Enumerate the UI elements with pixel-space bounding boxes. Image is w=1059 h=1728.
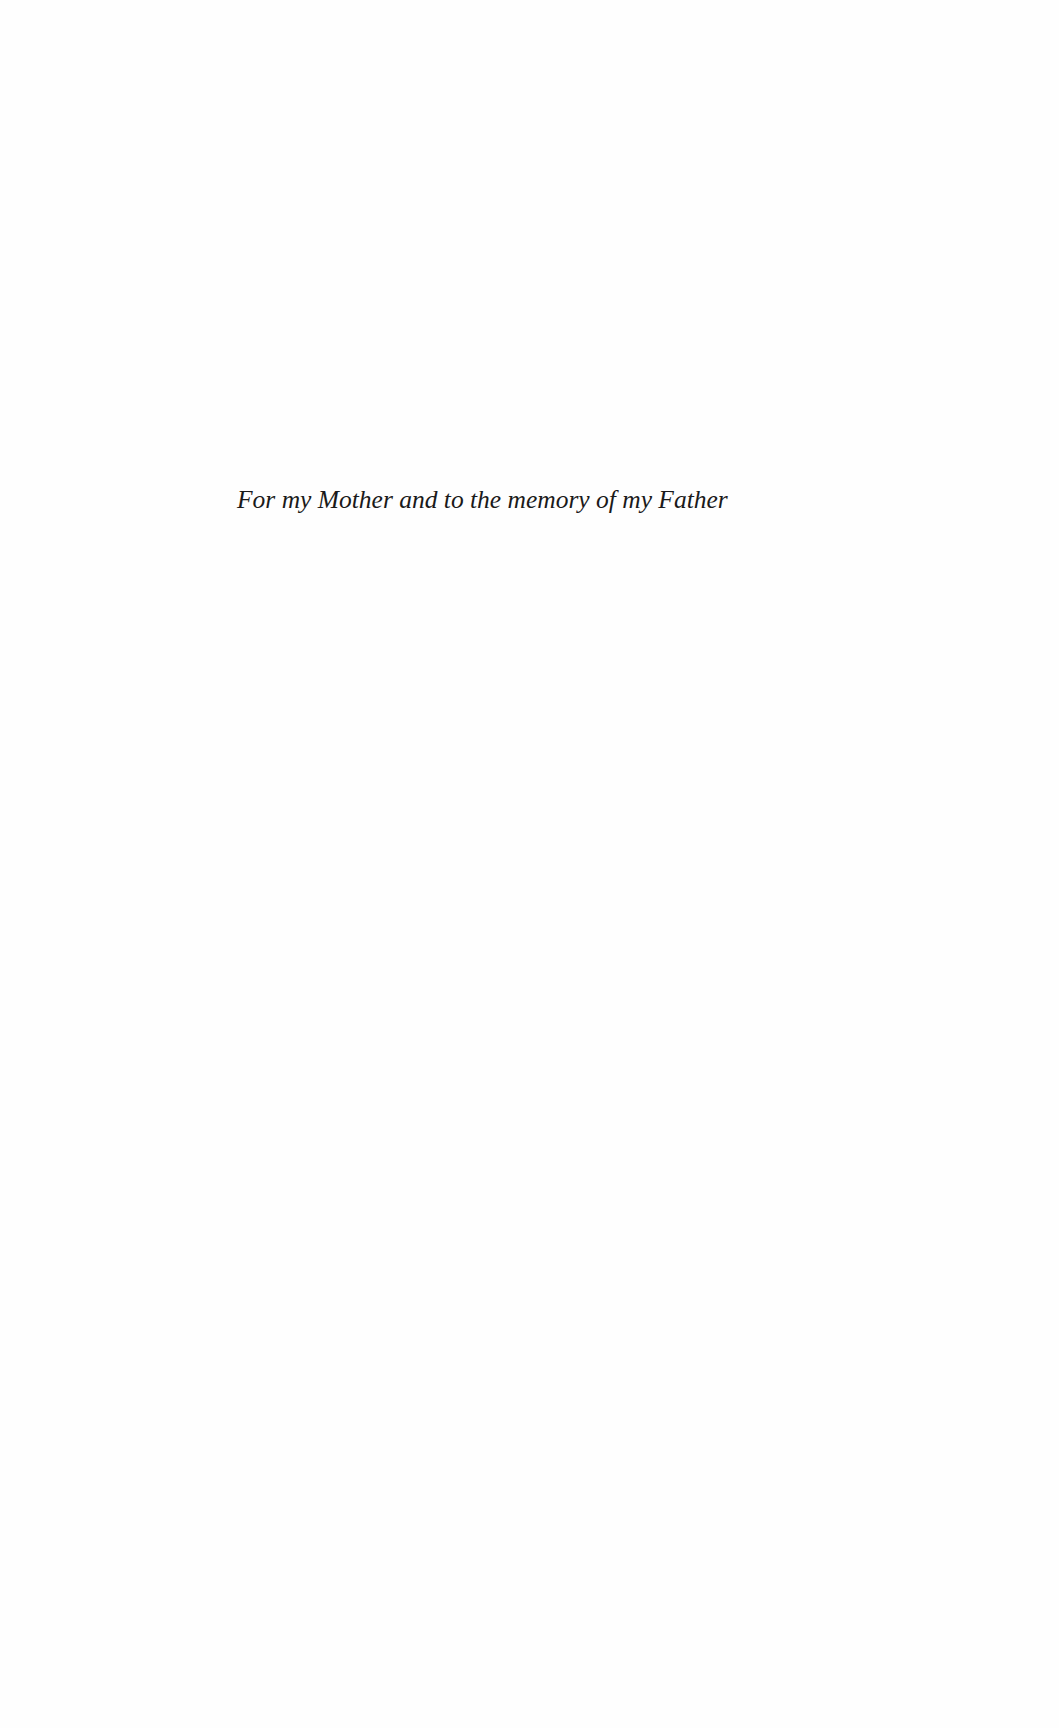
dedication-page: For my Mother and to the memory of my Fa…	[0, 0, 1059, 1728]
dedication-text: For my Mother and to the memory of my Fa…	[237, 484, 757, 516]
